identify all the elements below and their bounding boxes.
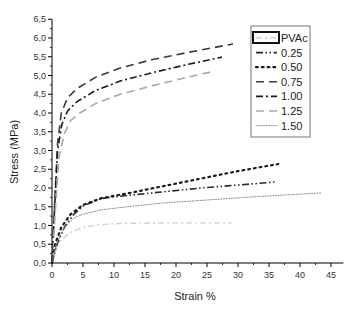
legend-label: 0.75 — [281, 76, 302, 88]
y-tick-label: 1,0 — [33, 221, 46, 231]
x-axis-title: Strain % — [174, 290, 216, 302]
legend-label: PVAc — [281, 32, 308, 44]
series-line-pvac — [52, 223, 232, 263]
y-tick-label: 4,5 — [33, 89, 46, 99]
y-tick-label: 6,5 — [33, 14, 46, 24]
y-tick-label: 2,0 — [33, 183, 46, 193]
series-line-1-50 — [52, 193, 322, 263]
legend-label: 0.25 — [281, 47, 302, 59]
x-tick-label: 20 — [171, 270, 181, 280]
y-tick-label: 5,0 — [33, 71, 46, 81]
legend-label: 0.50 — [281, 61, 302, 73]
x-tick-label: 0 — [49, 270, 54, 280]
y-tick-label: 5,5 — [33, 52, 46, 62]
series-line-0-75 — [52, 44, 233, 263]
x-tick-label: 10 — [109, 270, 119, 280]
y-axis-title: Stress (MPa) — [8, 120, 20, 184]
y-tick-label: 3,5 — [33, 127, 46, 137]
x-tick-label: 40 — [295, 270, 305, 280]
x-tick-label: 45 — [326, 270, 336, 280]
y-tick-label: 2,5 — [33, 164, 46, 174]
x-tick-label: 25 — [202, 270, 212, 280]
legend-label: 1.00 — [281, 90, 302, 102]
x-axis-ticks: 051015202530354045 — [49, 263, 336, 280]
x-tick-label: 15 — [140, 270, 150, 280]
y-tick-label: 1,5 — [33, 202, 46, 212]
y-tick-label: 6,0 — [33, 33, 46, 43]
x-tick-label: 30 — [233, 270, 243, 280]
x-tick-label: 5 — [80, 270, 85, 280]
series-line-1-00 — [52, 57, 222, 263]
y-tick-label: 0,0 — [33, 258, 46, 268]
y-tick-label: 0,5 — [33, 239, 46, 249]
y-tick-label: 4,0 — [33, 108, 46, 118]
legend: PVAc0.250.500.751.001.251.50 — [251, 26, 310, 137]
legend-label: 1.50 — [281, 120, 302, 132]
legend-label: 1.25 — [281, 105, 302, 117]
series-line-0-50 — [52, 164, 278, 263]
y-tick-label: 3,0 — [33, 146, 46, 156]
stress-strain-chart: 0,00,51,01,52,02,53,03,54,04,55,05,56,06… — [0, 0, 355, 313]
y-axis-ticks: 0,00,51,01,52,02,53,03,54,04,55,05,56,06… — [33, 14, 52, 268]
series-line-1-25 — [52, 72, 210, 263]
x-tick-label: 35 — [264, 270, 274, 280]
